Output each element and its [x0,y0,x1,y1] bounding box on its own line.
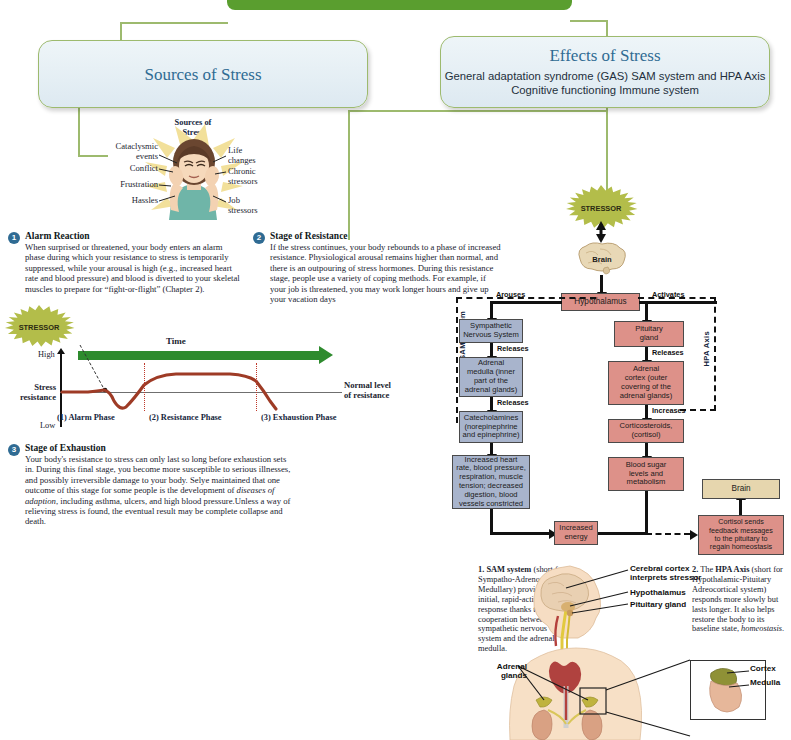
stage-3-text: Your body's resistance to stress can onl… [25,454,296,527]
arrow-effects-to-energy [490,532,550,535]
sources-of-stress-panel[interactable]: Sources of Stress [38,40,368,108]
node-pituitary-gland[interactable]: Pituitary gland [614,321,684,347]
edge-label-activates-right: Releases [652,348,684,357]
arrow-medulla-to-catecholamines [490,397,493,411]
node-cortisol-feedback[interactable]: Cortisol sends feedback messages to the … [698,515,784,555]
stage-3-title: Stage of Exhaustion [25,443,296,453]
stressor-burst-graph: STRESSOR [2,305,76,349]
arrow-feedback-to-brain [739,499,742,515]
chart-phase-label-3: (3) Exhaustion Phase [261,413,336,422]
stage-2-number: 2 [253,232,265,244]
stage-3-number: 3 [8,444,20,456]
node-sympathetic-effects[interactable]: Increased heart rate, blood pressure, re… [452,455,530,509]
anatomy-label-cortex: Cortex [750,664,776,673]
sources-panel-title: Sources of Stress [39,41,367,109]
arrow-corticosteroids-to-bloodsugar [645,443,648,457]
stage-1-number: 1 [8,232,20,244]
node-adrenal-cortex[interactable]: Adrenal cortex (outer covering of the ad… [608,361,684,405]
source-label-job-stressors: Job stressors [228,196,258,215]
node-adrenal-medulla[interactable]: Adrenal medulla (inner part of the adren… [459,357,523,397]
node-blood-sugar[interactable]: Blood sugar levels and metabolism [608,457,684,491]
stress-infographic-page: Stress Sources of Stress Effects of Stre… [0,0,791,740]
edge-label-releases-right: Increases [652,406,686,415]
node-catecholamines[interactable]: Catecholamines (norepinephrine and epine… [459,411,523,443]
effects-of-stress-panel[interactable]: Effects of Stress General adaptation syn… [440,36,770,108]
connector-banner-to-effects-h [570,20,608,22]
chart-phase-label-1: (1) Alarm Phase [57,413,115,422]
stage-3-exhaustion: 3 Stage of Exhaustion Your body's resist… [8,443,296,527]
chart-phase-label-2: (2) Resistance Phase [149,413,222,422]
stage-1-text: When surprised or threatened, your body … [25,242,240,294]
arrow-bloodsugar-to-energy [596,532,646,535]
brain-illustration: Brain [572,241,632,275]
stage-3-text-part2: , including asthma, ulcers, and high blo… [25,496,290,527]
page-banner-title: Stress [227,0,572,10]
edge-label-releases-left-text: Releases [497,398,529,407]
connector-banner-to-sources-h [120,22,228,24]
gas-stress-resistance-chart: Time High Low Stress resistance Normal l… [18,345,373,433]
source-label-hassles: Hassles [104,196,158,206]
effects-panel-title: Effects of Stress [441,46,769,66]
svg-text:Brain: Brain [592,255,612,264]
arrow-stressor-brain [588,221,618,243]
connector-effects-left-h [348,110,606,112]
dashed-feedback-arrow [646,533,690,535]
source-label-frustration: Frustration [97,180,158,190]
node-increased-energy[interactable]: Increased energy [554,521,598,545]
arrow-cortex-to-corticosteroids [645,405,648,419]
source-label-life-changes: Life changes [228,146,256,165]
anatomy-label-pituitary-gland: Pituitary gland [630,600,686,609]
source-label-conflict: Conflict [104,164,158,174]
arrow-brain-hypothalamus [600,275,603,293]
node-feedback-brain[interactable]: Brain [702,479,780,499]
stressor-burst-flow-label: STRESSOR [581,204,622,213]
arrow-pituitary-to-cortex [645,347,648,361]
stage-1-alarm-reaction: 1 Alarm Reaction When surprised or threa… [8,231,240,294]
arrow-sns-to-medulla [490,343,493,357]
stressor-burst-graph-label: STRESSOR [19,323,60,332]
anatomy-label-cerebral-cortex: Cerebral cortex interprets stressor [630,564,702,583]
anatomy-label-adrenal-glands: Adrenal glands [487,662,527,681]
chart-phase-divider-1 [144,363,145,411]
source-label-cataclysmic-events: Cataclysmic events [104,142,158,161]
anatomy-label-hypothalamus: Hypothalamus [630,588,686,597]
sources-of-stress-illustration: Sources of Stress [105,118,280,223]
hpa-axis-label: HPA Axis [702,331,711,366]
node-corticosteroids[interactable]: Corticosteroids, (cortisol) [608,419,684,443]
effects-panel-subtitle: General adaptation syndrome (GAS) SAM sy… [441,69,769,97]
line-bloodsugar-down [645,491,648,535]
arrow-catecholamines-to-effects [490,443,493,455]
stress-response-flowchart: STRESSOR Brain Hypothalamus Arouses Acti… [380,185,791,555]
source-label-chronic-stressors: Chronic stressors [228,167,258,186]
stage-1-title: Alarm Reaction [25,231,240,241]
connector-effects-left-v [348,110,350,240]
chart-phase-divider-2 [256,363,257,411]
node-sympathetic-nervous-system[interactable]: Sympathetic Nervous System [459,319,523,343]
edge-label-activates-left: Releases [497,344,529,353]
connector-sources-down [78,108,80,156]
explainer-sam-number: 1. [478,565,484,574]
anatomy-label-medulla: Medulla [750,678,780,687]
